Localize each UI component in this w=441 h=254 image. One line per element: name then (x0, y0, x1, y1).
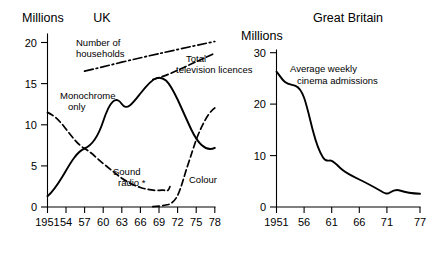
uk-x-ticks (48, 207, 215, 213)
gb-x-tick-label-1951: 1951 (264, 216, 288, 228)
uk-y-ticks (41, 43, 48, 208)
uk-label-number-of-households-line2: households (76, 48, 125, 59)
uk-y-tick-label-20: 20 (25, 37, 37, 49)
gb-y-tick-label-30: 30 (254, 47, 266, 59)
gb-y-tick-labels: 30 20 10 0 (254, 47, 266, 213)
gb-label-cinema-admissions-line1: Average weekly (290, 63, 357, 74)
uk-y-tick-label-0: 0 (31, 201, 37, 213)
uk-x-tick-label-78: 78 (209, 216, 221, 228)
uk-y-tick-label-10: 10 (25, 119, 37, 131)
gb-x-tick-label-61: 61 (326, 216, 338, 228)
gb-y-axis-unit-label: Millions (241, 29, 283, 43)
gb-label-cinema-admissions-line2: cinema admissions (297, 75, 378, 86)
gb-y-tick-label-10: 10 (254, 150, 266, 162)
gb-series-average-weekly-cinema-admissions (277, 72, 421, 194)
gb-x-tick-labels: 1951 56 61 66 71 77 (264, 216, 426, 228)
panel-great-britain: Great Britain Millions 30 20 10 0 (241, 11, 426, 228)
uk-series-colour (153, 108, 215, 207)
gb-x-tick-label-56: 56 (298, 216, 310, 228)
uk-x-tick-label-60: 60 (97, 216, 109, 228)
uk-y-tick-label-15: 15 (25, 78, 37, 90)
uk-x-tick-label-63: 63 (116, 216, 128, 228)
uk-x-tick-label-1951: 1951 (35, 216, 59, 228)
uk-x-tick-label-75: 75 (190, 216, 202, 228)
uk-label-total-television-licences-line2: television licences (176, 64, 253, 75)
uk-label-sound-radio-line1: Sound (113, 166, 140, 177)
uk-x-tick-labels: 1951 54 57 60 63 66 69 72 75 78 (35, 216, 221, 228)
uk-x-tick-label-54: 54 (60, 216, 72, 228)
uk-series-sound-radio (48, 112, 171, 190)
gb-x-tick-label-71: 71 (381, 216, 393, 228)
gb-x-tick-label-77: 77 (414, 216, 426, 228)
uk-y-tick-label-5: 5 (31, 160, 37, 172)
uk-x-tick-label-69: 69 (153, 216, 165, 228)
uk-series-annotations: Number of households Total television li… (60, 37, 253, 188)
uk-label-total-television-licences-line1: Total (186, 53, 206, 64)
gb-x-ticks (277, 207, 421, 213)
gb-panel-title: Great Britain (313, 11, 383, 25)
charts-svg: UK Millions 20 15 10 5 0 (0, 0, 441, 254)
uk-x-tick-label-72: 72 (171, 216, 183, 228)
gb-y-ticks (270, 53, 277, 207)
uk-label-monochrome-only-line2: only (68, 101, 86, 112)
uk-label-number-of-households-line1: Number of (76, 37, 121, 48)
uk-panel-title: UK (93, 11, 111, 25)
figure-container: UK Millions 20 15 10 5 0 (0, 0, 441, 254)
panel-uk: UK Millions 20 15 10 5 0 (22, 11, 253, 228)
uk-y-axis-unit-label: Millions (22, 11, 64, 25)
uk-y-tick-labels: 20 15 10 5 0 (25, 37, 37, 214)
uk-x-tick-label-66: 66 (134, 216, 146, 228)
uk-label-monochrome-only-line1: Monochrome (60, 90, 115, 101)
gb-y-tick-label-20: 20 (254, 98, 266, 110)
gb-series-annotations: Average weekly cinema admissions (290, 63, 378, 86)
uk-x-tick-label-57: 57 (78, 216, 90, 228)
gb-x-tick-label-66: 66 (353, 216, 365, 228)
uk-label-colour: Colour (189, 174, 217, 185)
gb-y-tick-label-0: 0 (260, 201, 266, 213)
uk-label-sound-radio-line2: radio * (118, 177, 146, 188)
